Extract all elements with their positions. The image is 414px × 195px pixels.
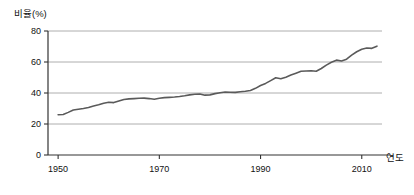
y-axis-tick-label: 60 bbox=[31, 57, 41, 67]
line-chart-plot: 020406080 1950197019902010 bbox=[0, 0, 414, 195]
chart-container: 비율(%) 연도 020406080 1950197019902010 bbox=[0, 0, 414, 195]
x-axis-tick-label: 1970 bbox=[149, 164, 169, 174]
x-axis-tick-label: 2010 bbox=[352, 164, 372, 174]
data-series-line bbox=[58, 46, 377, 115]
y-axis-tick-label: 20 bbox=[31, 119, 41, 129]
y-axis-tick-label: 80 bbox=[31, 26, 41, 36]
x-axis-ticks-group: 1950197019902010 bbox=[48, 155, 372, 174]
x-axis-tick-label: 1990 bbox=[251, 164, 271, 174]
y-axis-ticks-group: 020406080 bbox=[31, 26, 48, 160]
y-axis-tick-label: 40 bbox=[31, 88, 41, 98]
x-axis-tick-label: 1950 bbox=[48, 164, 68, 174]
y-axis-tick-label: 0 bbox=[36, 150, 41, 160]
gridlines-group bbox=[48, 31, 382, 124]
